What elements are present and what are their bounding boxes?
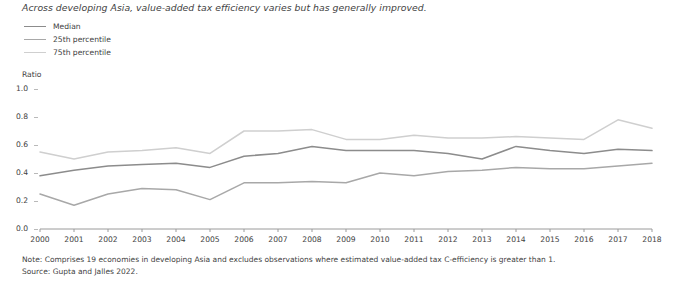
x-axis-tick-label: 2011: [397, 235, 431, 244]
x-axis-tick-label: 2007: [261, 235, 295, 244]
y-axis-tick-label: 0.8: [6, 112, 28, 121]
plot-area: 0.00.20.40.60.81.02000200120022003200420…: [0, 0, 675, 282]
x-axis-tick-label: 2001: [57, 235, 91, 244]
y-axis-tick-label: 0.2: [6, 196, 28, 205]
y-axis-tick-label: 1.0: [6, 84, 28, 93]
x-axis-tick-label: 2005: [193, 235, 227, 244]
y-axis-tick-label: 0.4: [6, 168, 28, 177]
x-axis-tick-label: 2016: [567, 235, 601, 244]
x-axis-tick-label: 2006: [227, 235, 261, 244]
y-axis-tick: [34, 229, 38, 230]
y-axis-tick-label: 0.0: [6, 224, 28, 233]
x-axis-tick-label: 2017: [601, 235, 635, 244]
chart-figure: Across developing Asia, value-added tax …: [0, 0, 675, 282]
y-axis-tick: [34, 173, 38, 174]
x-axis-tick-label: 2010: [363, 235, 397, 244]
x-axis-tick-label: 2008: [295, 235, 329, 244]
chart-source: Source: Gupta and Jalles 2022.: [22, 267, 138, 276]
series-line-75th-percentile: [40, 120, 652, 159]
chart-note: Note: Comprises 19 economies in developi…: [22, 255, 555, 264]
x-axis-tick-label: 2003: [125, 235, 159, 244]
x-axis-tick-label: 2002: [91, 235, 125, 244]
x-axis-tick-label: 2014: [499, 235, 533, 244]
x-axis-tick-label: 2004: [159, 235, 193, 244]
y-axis-tick: [34, 145, 38, 146]
series-line-25th-percentile: [40, 163, 652, 205]
x-axis-tick-label: 2000: [23, 235, 57, 244]
x-axis-tick-label: 2015: [533, 235, 567, 244]
y-axis-tick: [34, 89, 38, 90]
x-axis-tick-label: 2012: [431, 235, 465, 244]
x-axis-tick-label: 2013: [465, 235, 499, 244]
y-axis-tick: [34, 201, 38, 202]
x-axis-tick-label: 2018: [635, 235, 669, 244]
x-axis-tick-label: 2009: [329, 235, 363, 244]
y-axis-tick-label: 0.6: [6, 140, 28, 149]
y-axis-tick: [34, 117, 38, 118]
